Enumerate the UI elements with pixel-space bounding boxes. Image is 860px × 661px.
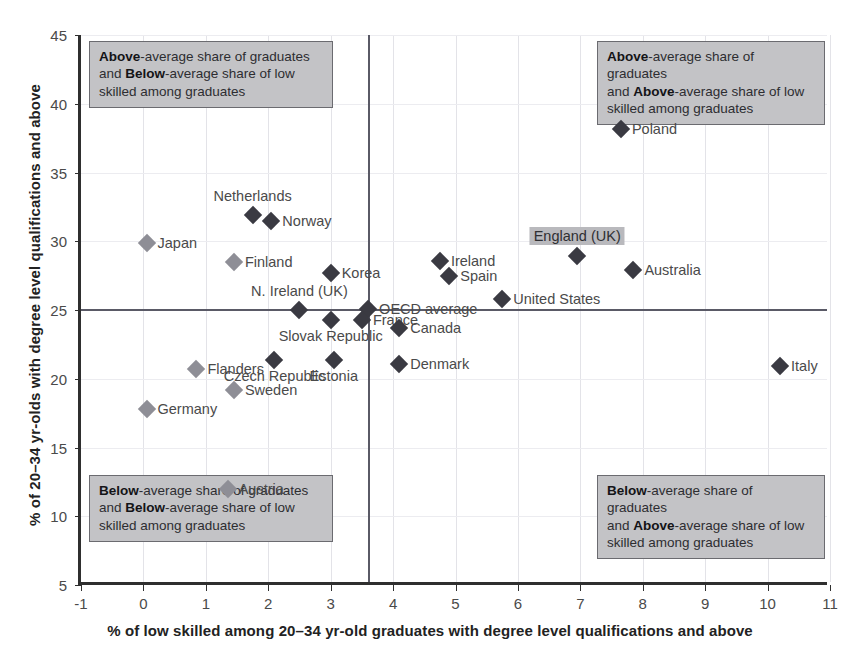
y-tick [75, 448, 81, 449]
quadrant-annotation-bottom-left: Below-average share of graduatesand Belo… [89, 475, 333, 542]
data-point-marker[interactable] [325, 350, 343, 368]
quadrant-annotation-bottom-right: Below-average share of graduatesand Abov… [597, 475, 825, 559]
x-tick-label: 9 [701, 595, 709, 612]
data-point-marker[interactable] [187, 360, 205, 378]
data-point-label: Flanders [207, 361, 263, 377]
gridline-horizontal [81, 448, 827, 449]
x-tick-label: 4 [389, 595, 397, 612]
data-point-label: Germany [158, 401, 218, 417]
x-tick [456, 585, 457, 591]
x-axis-title: % of low skilled among 20–34 yr-old grad… [0, 622, 860, 639]
x-tick [206, 585, 207, 591]
annotation-line-3: skilled among graduates [99, 83, 324, 100]
x-tick [268, 585, 269, 591]
scatter-chart: % of 20–34 yr-olds with degree level qua… [0, 0, 860, 661]
y-axis-title: % of 20–34 yr-olds with degree level qua… [26, 25, 43, 585]
data-point-label: Poland [632, 121, 677, 137]
data-point-label: Japan [158, 235, 198, 251]
x-tick [518, 585, 519, 591]
x-tick [331, 585, 332, 591]
data-point-label: Estonia [310, 368, 358, 384]
y-tick [75, 173, 81, 174]
data-point-label: Slovak Republic [279, 328, 383, 344]
x-tick [81, 585, 82, 591]
data-point-label: Denmark [410, 356, 469, 372]
data-point-label: United States [513, 291, 600, 307]
x-tick-label: 2 [264, 595, 272, 612]
x-tick [143, 585, 144, 591]
annotation-line-3: skilled among graduates [607, 534, 816, 551]
data-point-label: Italy [791, 358, 818, 374]
data-point-marker[interactable] [493, 290, 511, 308]
data-point-marker[interactable] [321, 264, 339, 282]
annotation-line-2: and Below-average share of low [99, 65, 324, 82]
y-tick-label: 35 [50, 164, 67, 181]
x-tick-label: 3 [326, 595, 334, 612]
y-tick-label: 15 [50, 439, 67, 456]
x-tick-label: 5 [451, 595, 459, 612]
data-point-marker[interactable] [137, 400, 155, 418]
x-tick-label: 1 [202, 595, 210, 612]
data-point-marker[interactable] [431, 251, 449, 269]
annotation-line-1: Above-average share of graduates [99, 48, 324, 65]
data-point-marker[interactable] [568, 247, 586, 265]
x-tick [768, 585, 769, 591]
x-tick-label: 11 [822, 595, 838, 612]
y-tick-label: 10 [50, 508, 67, 525]
y-tick-label: 40 [50, 95, 67, 112]
data-point-label: England (UK) [530, 227, 625, 245]
annotation-line-3: skilled among graduates [99, 517, 324, 534]
data-point-marker[interactable] [137, 233, 155, 251]
y-tick-label: 5 [59, 577, 67, 594]
x-tick-label: 0 [139, 595, 147, 612]
x-tick [643, 585, 644, 591]
data-point-marker[interactable] [624, 261, 642, 279]
x-tick [705, 585, 706, 591]
gridline-vertical [830, 35, 831, 582]
data-point-label: Korea [342, 265, 381, 281]
x-tick [580, 585, 581, 591]
data-point-label: Canada [410, 320, 461, 336]
gridline-horizontal [81, 173, 827, 174]
data-point-label: Austria [239, 481, 284, 497]
x-tick-label: 8 [639, 595, 647, 612]
y-tick-label: 20 [50, 370, 67, 387]
x-tick-label: 10 [759, 595, 776, 612]
data-point-label: Norway [282, 213, 331, 229]
data-point-label: N. Ireland (UK) [251, 283, 348, 299]
data-point-marker[interactable] [225, 253, 243, 271]
annotation-line-2: and Below-average share of low [99, 499, 324, 516]
y-tick [75, 516, 81, 517]
y-tick-label: 30 [50, 233, 67, 250]
y-tick [75, 104, 81, 105]
annotation-line-3: skilled among graduates [607, 100, 816, 117]
x-tick-label: 7 [576, 595, 584, 612]
data-point-marker[interactable] [321, 310, 339, 328]
y-tick [75, 379, 81, 380]
y-tick [75, 35, 81, 36]
data-point-marker[interactable] [262, 211, 280, 229]
x-tick-label: -1 [74, 595, 87, 612]
data-point-label: Sweden [245, 382, 297, 398]
data-point-marker[interactable] [243, 206, 261, 224]
y-tick-label: 25 [50, 302, 67, 319]
data-point-label: Spain [460, 268, 497, 284]
y-tick [75, 241, 81, 242]
gridline-horizontal [81, 35, 827, 36]
annotation-line-2: and Above-average share of low [607, 517, 816, 534]
data-point-label: Netherlands [214, 188, 292, 204]
data-point-marker[interactable] [290, 301, 308, 319]
data-point-marker[interactable] [771, 357, 789, 375]
x-tick-label: 6 [514, 595, 522, 612]
annotation-line-1: Below-average share of graduates [607, 482, 816, 517]
y-tick [75, 310, 81, 311]
gridline-horizontal [81, 379, 827, 380]
x-tick [393, 585, 394, 591]
x-tick [830, 585, 831, 591]
quadrant-annotation-top-right: Above-average share of graduatesand Abov… [597, 41, 825, 125]
plot-area: -10123456789101151015202530354045 Above-… [78, 35, 827, 585]
data-point-label: Ireland [451, 253, 495, 269]
data-point-label: Australia [644, 262, 700, 278]
data-point-label: Finland [245, 254, 293, 270]
y-tick [75, 585, 81, 586]
